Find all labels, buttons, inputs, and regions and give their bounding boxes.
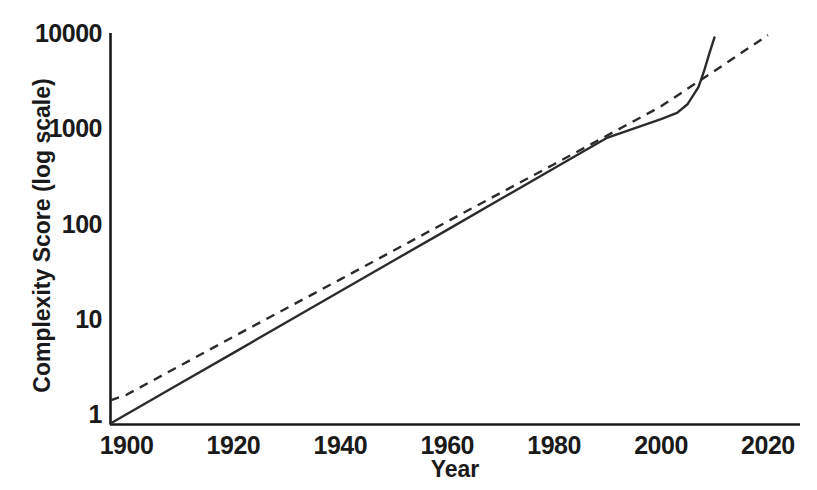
solid-series-line [111,37,715,423]
y-axis-title: Complexity Score (log scale) [29,46,56,426]
x-axis-title: Year [110,456,800,483]
plot-area [0,0,817,490]
dashed-series-line [111,35,768,400]
chart-figure: 10000 1000 100 10 1 1900 1920 1940 1960 … [0,0,817,490]
ytick-label-10000: 10000 [0,19,102,48]
